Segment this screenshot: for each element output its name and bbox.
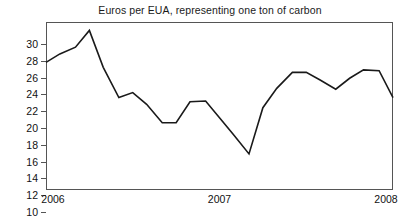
y-tick-label: 12 bbox=[26, 189, 38, 201]
y-tick-label: 28 bbox=[26, 55, 38, 67]
plot-area bbox=[46, 22, 393, 190]
y-tick-label: 26 bbox=[26, 72, 38, 84]
y-tick-label: 16 bbox=[26, 156, 38, 168]
y-tick-label: 10 bbox=[26, 206, 38, 218]
x-tick-label: 2007 bbox=[208, 193, 231, 205]
y-tick-label: 20 bbox=[26, 122, 38, 134]
series-line-chart bbox=[46, 22, 393, 190]
x-axis: 200620072008 bbox=[46, 193, 393, 213]
y-tick-label: 24 bbox=[26, 88, 38, 100]
y-axis: 1012141618202224262830 bbox=[0, 22, 46, 190]
y-tick-label: 14 bbox=[26, 172, 38, 184]
y-tick-label: 18 bbox=[26, 139, 38, 151]
x-tick-label: 2006 bbox=[41, 193, 64, 205]
y-tick-label: 22 bbox=[26, 105, 38, 117]
chart-container: Euros per EUA, representing one ton of c… bbox=[0, 0, 420, 223]
series-path-euros-per-eua bbox=[46, 30, 393, 153]
y-tick-label: 30 bbox=[26, 38, 38, 50]
chart-title: Euros per EUA, representing one ton of c… bbox=[0, 4, 420, 16]
x-tick-label: 2008 bbox=[374, 193, 397, 205]
